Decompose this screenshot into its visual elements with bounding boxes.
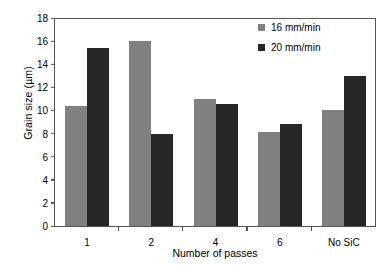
- bar-group: 2: [119, 18, 183, 226]
- bar-group: No SiC: [312, 18, 376, 226]
- legend-swatch-icon: [258, 44, 265, 51]
- y-axis-title: Grain size (µm): [22, 23, 34, 183]
- legend-swatch-icon: [258, 24, 265, 31]
- bar[interactable]: [280, 124, 302, 226]
- x-axis-title: Number of passes: [54, 247, 376, 259]
- legend-label: 20 mm/min: [271, 42, 320, 53]
- legend-item[interactable]: 20 mm/min: [258, 42, 320, 53]
- bar[interactable]: [151, 134, 173, 226]
- legend-item[interactable]: 16 mm/min: [258, 22, 320, 33]
- legend-label: 16 mm/min: [271, 22, 320, 33]
- y-tick-label: 4: [42, 174, 55, 185]
- x-tick-mark: [311, 226, 312, 231]
- y-tick-label: 14: [37, 59, 55, 70]
- y-tick-label: 0: [42, 221, 55, 232]
- plot-area: 181614121086420 1246No SiC: [54, 18, 376, 227]
- y-tick-label: 2: [42, 197, 55, 208]
- bar-groups: 1246No SiC: [55, 18, 376, 226]
- bar[interactable]: [129, 41, 151, 226]
- bar[interactable]: [258, 132, 280, 226]
- bar-group: 4: [183, 18, 247, 226]
- y-tick-label: 18: [37, 13, 55, 24]
- bar[interactable]: [216, 104, 238, 226]
- y-tick-label: 12: [37, 82, 55, 93]
- y-tick-label: 10: [37, 105, 55, 116]
- bar[interactable]: [322, 110, 344, 226]
- bar[interactable]: [344, 76, 366, 226]
- chart-legend: 16 mm/min20 mm/min: [258, 22, 320, 62]
- y-tick-label: 16: [37, 36, 55, 47]
- y-tick-label: 8: [42, 128, 55, 139]
- bar[interactable]: [194, 99, 216, 226]
- y-tick-label: 6: [42, 151, 55, 162]
- bar-chart-figure: Grain size (µm) 181614121086420 1246No S…: [0, 0, 389, 269]
- bar[interactable]: [87, 48, 109, 226]
- x-tick-mark: [118, 226, 119, 231]
- bar[interactable]: [65, 106, 87, 226]
- x-tick-mark: [182, 226, 183, 231]
- bar-group: 1: [55, 18, 119, 226]
- x-tick-mark: [246, 226, 247, 231]
